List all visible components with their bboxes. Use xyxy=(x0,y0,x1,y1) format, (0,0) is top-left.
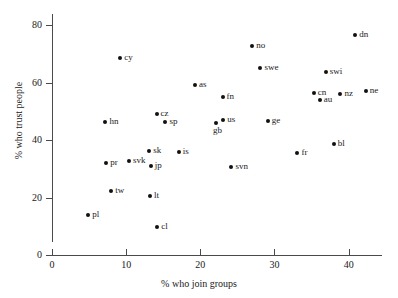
point-marker xyxy=(193,83,197,87)
y-tick-0 xyxy=(46,255,52,256)
point-marker xyxy=(104,161,108,165)
point-label-cz: cz xyxy=(161,109,169,118)
y-tick-label-0: 0 xyxy=(12,250,42,260)
x-axis-line xyxy=(52,255,382,256)
point-label-lt: lt xyxy=(154,191,159,200)
y-tick-label-80: 80 xyxy=(12,20,42,30)
point-marker xyxy=(163,120,167,124)
x-tick-label-0: 0 xyxy=(37,260,67,270)
point-label-jp: jp xyxy=(155,161,162,170)
point-marker xyxy=(103,120,107,124)
point-label-fr: fr xyxy=(301,148,307,157)
point-label-sk: sk xyxy=(153,146,161,155)
point-marker xyxy=(353,33,357,37)
x-tick-label-10: 10 xyxy=(111,260,141,270)
x-tick-label-30: 30 xyxy=(259,260,289,270)
point-label-tw: tw xyxy=(115,186,124,195)
point-marker xyxy=(364,89,368,93)
point-label-dn: dn xyxy=(359,30,368,39)
x-tick-0 xyxy=(52,249,53,255)
point-label-swe: swe xyxy=(264,63,278,72)
point-marker xyxy=(177,150,181,154)
point-marker xyxy=(229,165,233,169)
point-label-as: as xyxy=(199,80,207,89)
point-label-hn: hn xyxy=(109,117,118,126)
point-label-sp: sp xyxy=(169,117,177,126)
point-label-us: us xyxy=(227,115,235,124)
point-marker xyxy=(332,142,336,146)
point-label-cy: cy xyxy=(124,53,133,62)
point-marker xyxy=(86,213,90,217)
point-marker xyxy=(338,92,342,96)
point-marker xyxy=(118,56,122,60)
x-tick-20 xyxy=(200,249,201,255)
point-marker xyxy=(155,112,159,116)
plot-area: 020406080010203040 plhnprtwcysvkskjpltcz… xyxy=(0,0,398,298)
point-label-au: au xyxy=(324,95,333,104)
x-tick-label-20: 20 xyxy=(185,260,215,270)
point-label-ne: ne xyxy=(370,86,379,95)
point-marker xyxy=(295,151,299,155)
point-marker xyxy=(221,118,225,122)
scatter-chart: 020406080010203040 plhnprtwcysvkskjpltcz… xyxy=(0,0,398,298)
point-label-fn: fn xyxy=(227,92,235,101)
point-marker xyxy=(250,44,254,48)
point-label-nz: nz xyxy=(344,89,353,98)
y-axis-line xyxy=(52,14,53,242)
point-label-pl: pl xyxy=(92,210,99,219)
point-label-ge: ge xyxy=(272,116,281,125)
y-tick-80 xyxy=(46,25,52,26)
point-label-bl: bl xyxy=(338,139,345,148)
point-marker xyxy=(312,91,316,95)
point-marker xyxy=(221,95,225,99)
point-marker xyxy=(149,164,153,168)
point-marker xyxy=(155,225,159,229)
y-tick-60 xyxy=(46,83,52,84)
point-label-pr: pr xyxy=(110,158,118,167)
point-marker xyxy=(266,119,270,123)
y-tick-label-20: 20 xyxy=(12,193,42,203)
point-marker xyxy=(318,98,322,102)
x-tick-30 xyxy=(274,249,275,255)
x-tick-40 xyxy=(349,249,350,255)
point-marker xyxy=(148,194,152,198)
y-tick-20 xyxy=(46,198,52,199)
point-marker xyxy=(109,189,113,193)
point-label-no: no xyxy=(256,41,265,50)
point-marker xyxy=(147,149,151,153)
x-tick-10 xyxy=(126,249,127,255)
point-marker xyxy=(324,70,328,74)
point-label-svn: svn xyxy=(235,162,248,171)
point-marker xyxy=(127,159,131,163)
point-label-is: is xyxy=(183,147,189,156)
point-marker xyxy=(258,66,262,70)
y-tick-40 xyxy=(46,140,52,141)
x-axis-title: % who join groups xyxy=(0,278,398,289)
point-label-svk: svk xyxy=(133,156,146,165)
y-axis-title: % who trust people xyxy=(13,51,24,191)
x-tick-label-40: 40 xyxy=(334,260,364,270)
point-label-cl: cl xyxy=(161,222,168,231)
point-label-gb: gb xyxy=(213,126,222,135)
point-label-swi: swi xyxy=(330,67,343,76)
